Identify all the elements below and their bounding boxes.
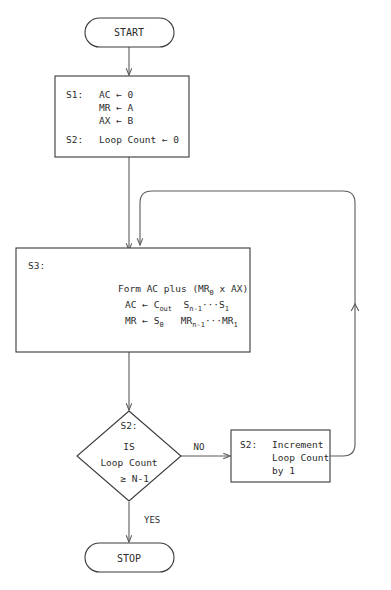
edge-label-yes: YES (144, 515, 160, 525)
form-line-0-main: Form AC plus (MR (118, 283, 210, 294)
flowchart-canvas: START S1: AC ← 0 MR ← A AX ← B S2: Loop … (0, 0, 391, 590)
init-line-3-text: Loop Count ← 0 (99, 134, 179, 145)
decision-compare: ≥ N-1 (80, 473, 177, 484)
form-line-2-rhs2: MR (222, 315, 234, 326)
form-line-2-rhs-sub: n-1 (192, 321, 205, 329)
decision-line-0: IS (123, 441, 135, 452)
form-line-1-lhs: AC ← C (125, 299, 159, 310)
init-line-1-text: MR ← A (99, 102, 134, 113)
decision-state-label: S2: (120, 420, 137, 431)
form-state-label: S3: (28, 260, 45, 271)
increment-line-0-text: Increment (272, 439, 323, 450)
edge-label-no: NO (194, 442, 205, 452)
increment-line-0-state: S2: (240, 439, 257, 450)
init-line-2-text: AX ← B (99, 115, 134, 126)
init-line-0-text: AC ← 0 (99, 89, 134, 100)
form-line-2-dots: ··· (205, 315, 222, 326)
form-line-1-rhs2-sub: 1 (225, 305, 229, 313)
form-line-1-dots: ··· (202, 299, 219, 310)
decision-compare-value: N-1 (132, 473, 149, 484)
start-terminal-label: START (114, 27, 144, 38)
stop-terminal-label: STOP (117, 553, 141, 564)
form-line-2-lhs: MR ← S (125, 315, 160, 326)
flowchart-svg: START S1: AC ← 0 MR ← A AX ← B S2: Loop … (0, 0, 391, 590)
form-line-2-rhs2-sub: 1 (234, 321, 238, 329)
decision-line-1: Loop Count (100, 457, 157, 468)
form-line-1-rhs-sub: n-1 (189, 305, 202, 313)
increment-line-1-text: Loop Count (272, 452, 329, 463)
form-line-1-lhs-sub: out (159, 305, 172, 313)
init-line-0-state: S1: (66, 89, 83, 100)
form-line-0-tail: x AX) (214, 283, 248, 294)
form-line-2-rhs: MR (181, 315, 193, 326)
init-line-3-state: S2: (66, 134, 83, 145)
increment-line-2-text: by 1 (272, 465, 295, 476)
